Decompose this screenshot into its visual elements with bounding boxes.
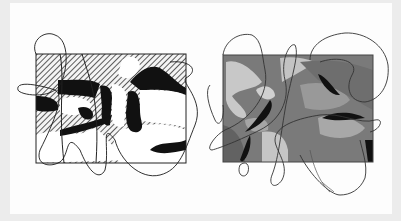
artwork-canvas [0, 0, 401, 221]
left-drawing [18, 34, 198, 176]
right-drawing [208, 33, 389, 195]
